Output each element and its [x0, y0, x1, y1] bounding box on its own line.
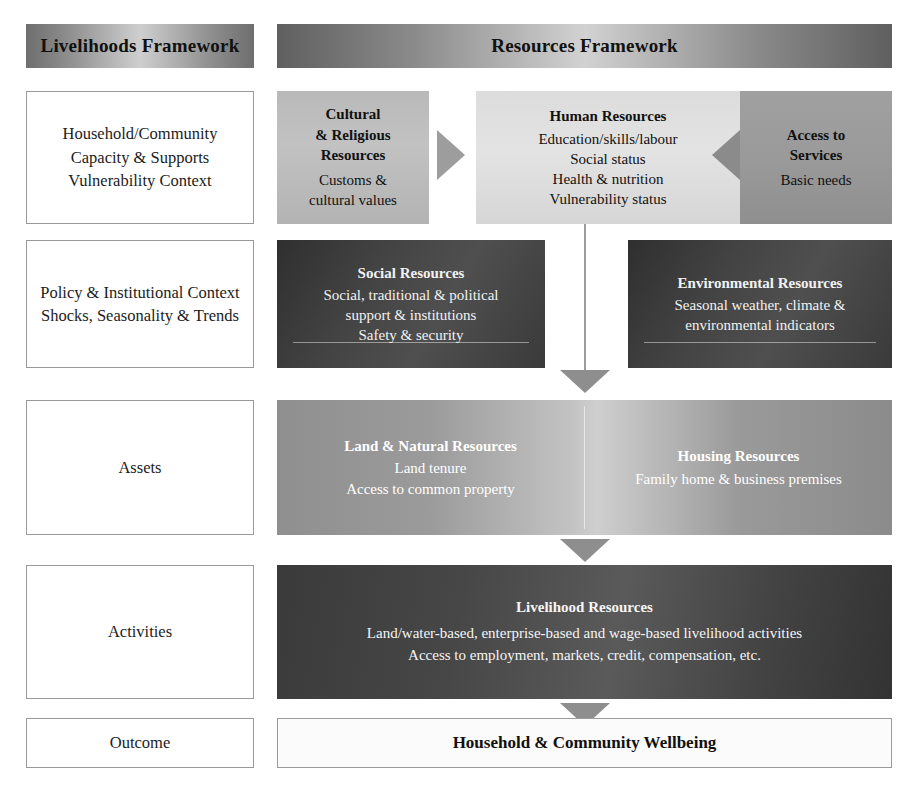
- connector-human-to-assets-line: [584, 224, 586, 372]
- card-cultural-sub: Customs & cultural values: [309, 170, 397, 211]
- card-access-sub: Basic needs: [780, 170, 851, 190]
- card-housing-resources: Housing Resources Family home & business…: [585, 400, 892, 535]
- sidebar-item-activities-label: Activities: [108, 620, 172, 643]
- header-resources-label: Resources Framework: [491, 35, 678, 57]
- card-housing-sub: Family home & business premises: [635, 469, 842, 489]
- sidebar-item-assets: Assets: [26, 400, 254, 535]
- card-human-sub: Education/skills/labour Social status He…: [538, 129, 677, 209]
- sidebar-item-policy: Policy & Institutional Context Shocks, S…: [26, 240, 254, 368]
- card-access-to-services: Access to Services Basic needs: [740, 91, 892, 224]
- band-outcome: Household & Community Wellbeing: [277, 718, 892, 768]
- arrow-down-icon-assets-to-activities: [560, 539, 610, 562]
- sidebar-item-outcome: Outcome: [26, 718, 254, 768]
- card-environmental-sub: Seasonal weather, climate & environmenta…: [675, 295, 846, 336]
- arrow-right-icon: [437, 130, 465, 180]
- card-environmental-title: Environmental Resources: [678, 273, 843, 293]
- card-land-title: Land & Natural Resources: [344, 436, 517, 456]
- card-human-title: Human Resources: [550, 106, 667, 126]
- card-livelihood-title: Livelihood Resources: [516, 597, 653, 619]
- sidebar-item-outcome-label: Outcome: [110, 731, 170, 754]
- header-resources-framework: Resources Framework: [277, 24, 892, 68]
- card-environmental-hairline: [644, 342, 876, 343]
- card-livelihood-sub: Land/water-based, enterprise-based and w…: [367, 623, 802, 667]
- header-livelihoods-framework: Livelihoods Framework: [26, 24, 254, 68]
- sidebar-item-activities: Activities: [26, 565, 254, 699]
- sidebar-item-policy-label: Policy & Institutional Context Shocks, S…: [40, 281, 239, 328]
- card-outcome-title: Household & Community Wellbeing: [453, 733, 717, 753]
- card-land-natural-resources: Land & Natural Resources Land tenure Acc…: [277, 400, 584, 535]
- header-livelihoods-label: Livelihoods Framework: [41, 35, 240, 57]
- card-human-resources: Human Resources Education/skills/labour …: [476, 91, 740, 224]
- card-social-resources: Social Resources Social, traditional & p…: [277, 240, 545, 368]
- card-social-sub: Social, traditional & political support …: [324, 285, 499, 346]
- arrow-down-icon-human-to-assets: [560, 370, 610, 393]
- sidebar-item-capacity-label: Household/Community Capacity & Supports …: [63, 122, 218, 192]
- sidebar-item-capacity: Household/Community Capacity & Supports …: [26, 91, 254, 224]
- card-access-title: Access to Services: [787, 125, 846, 166]
- card-cultural-religious-resources: Cultural & Religious Resources Customs &…: [277, 91, 429, 224]
- diagram-canvas: Livelihoods Framework Resources Framewor…: [0, 0, 916, 793]
- band-assets: Land & Natural Resources Land tenure Acc…: [277, 400, 892, 535]
- card-land-sub: Land tenure Access to common property: [346, 458, 515, 499]
- card-environmental-resources: Environmental Resources Seasonal weather…: [628, 240, 892, 368]
- card-social-title: Social Resources: [358, 263, 465, 283]
- card-housing-title: Housing Resources: [678, 446, 800, 466]
- card-social-hairline: [293, 342, 529, 343]
- band-livelihood-resources: Livelihood Resources Land/water-based, e…: [277, 565, 892, 699]
- arrow-left-icon: [712, 130, 740, 180]
- card-cultural-title: Cultural & Religious Resources: [315, 104, 390, 165]
- sidebar-item-assets-label: Assets: [118, 456, 161, 479]
